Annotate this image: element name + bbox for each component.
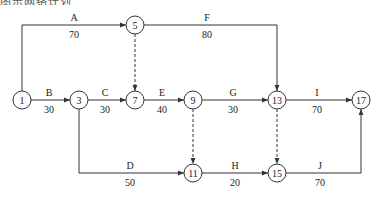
node-15-label: 15 [272,168,282,179]
node-1: 1 [13,91,31,109]
activity-j-duration: 70 [315,177,325,188]
activity-c-name: C [102,87,109,98]
activity-f-duration: 80 [202,29,212,40]
node-9-label: 9 [191,95,196,106]
activity-c: C 30 [88,87,126,115]
activity-h-duration: 20 [230,177,240,188]
node-17-label: 17 [356,95,366,106]
activity-d: D 50 [79,109,184,188]
activity-b: B 30 [31,87,70,115]
node-5-label: 5 [133,20,138,31]
node-15: 15 [268,164,286,182]
node-13: 13 [268,91,286,109]
activity-h: H 20 [202,160,268,188]
activity-c-duration: 30 [100,104,110,115]
activity-d-name: D [126,160,133,171]
node-11: 11 [184,164,202,182]
activity-b-duration: 30 [44,104,54,115]
activity-i-duration: 70 [312,104,322,115]
node-5: 5 [126,16,144,34]
activity-d-duration: 50 [125,177,135,188]
node-3: 3 [70,91,88,109]
node-1-label: 1 [20,95,25,106]
node-3-label: 3 [77,95,82,106]
activity-i-name: I [315,87,318,98]
activity-h-name: H [231,160,238,171]
activity-j-name: J [318,160,322,171]
activity-g: G 30 [202,87,268,115]
activity-f: F 80 [144,12,277,91]
activity-e-duration: 40 [157,104,167,115]
activity-e-name: E [159,87,165,98]
activity-j: J 70 [286,109,361,188]
node-7: 7 [126,91,144,109]
node-11-label: 11 [188,168,198,179]
activity-g-name: G [229,87,236,98]
activity-e: E 40 [144,87,184,115]
node-17: 17 [352,91,370,109]
node-9: 9 [184,91,202,109]
activity-i: I 70 [286,87,352,115]
activity-g-duration: 30 [228,104,238,115]
network-diagram: A 70 B 30 C 30 D 50 E 40 F 80 G 30 H [0,0,381,197]
node-7-label: 7 [133,95,138,106]
activity-a-name: A [70,12,78,23]
activity-b-name: B [46,87,53,98]
node-13-label: 13 [272,95,282,106]
activity-a-duration: 70 [69,29,79,40]
activity-f-name: F [204,12,210,23]
activity-a: A 70 [22,12,126,91]
